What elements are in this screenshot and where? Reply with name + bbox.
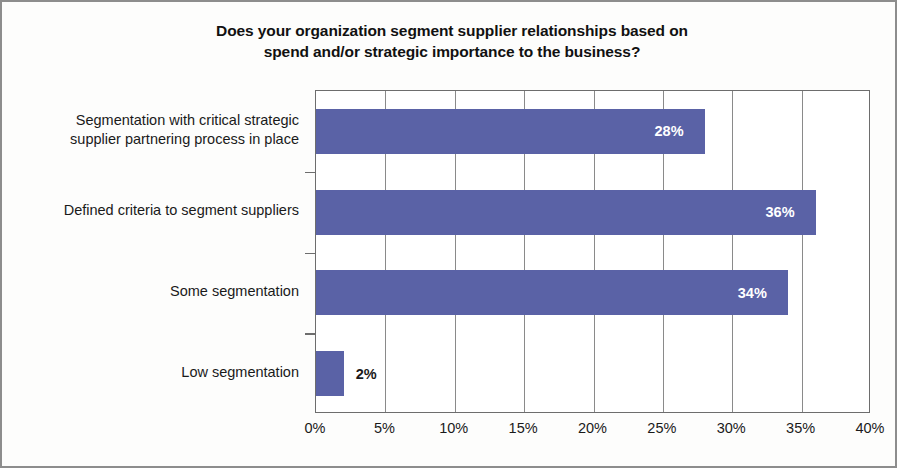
y-axis-tick	[305, 253, 316, 254]
y-axis-category-labels: Segmentation with critical strategicsupp…	[2, 90, 299, 413]
y-axis-tick	[305, 172, 316, 173]
bar	[316, 190, 816, 235]
category-label-line: Low segmentation	[181, 363, 299, 382]
bar-value-label: 2%	[356, 366, 377, 382]
x-tick-label: 5%	[374, 420, 395, 436]
plot-area: 28%36%34%2%	[315, 90, 870, 413]
x-tick-label: 30%	[717, 420, 746, 436]
bar-value-label: 28%	[655, 123, 684, 139]
x-tick-label: 35%	[786, 420, 815, 436]
category-label-line: Defined criteria to segment suppliers	[64, 201, 299, 220]
bar	[316, 270, 788, 315]
chart-figure: Does your organization segment supplier …	[0, 0, 897, 468]
x-tick-label: 40%	[855, 420, 884, 436]
chart-title-line-2: spend and/or strategic importance to the…	[112, 41, 792, 62]
x-tick-label: 0%	[305, 420, 326, 436]
bar	[316, 109, 705, 154]
x-tick-label: 20%	[578, 420, 607, 436]
category-label-line: Segmentation with critical strategic	[70, 111, 299, 130]
chart-title: Does your organization segment supplier …	[112, 20, 792, 63]
bar-row: 2%	[316, 351, 871, 396]
x-tick-label: 15%	[509, 420, 538, 436]
bar-value-label: 34%	[738, 285, 767, 301]
bar-row: 34%	[316, 270, 871, 315]
bar-row: 28%	[316, 109, 871, 154]
category-label: Defined criteria to segment suppliers	[64, 201, 299, 220]
category-label-line: Some segmentation	[170, 282, 299, 301]
category-label-line: supplier partnering process in place	[70, 130, 299, 149]
bar	[316, 351, 344, 396]
y-axis-tick	[305, 333, 316, 334]
x-tick-label: 10%	[439, 420, 468, 436]
category-label: Low segmentation	[181, 363, 299, 382]
x-axis-tick-labels: 0%5%10%15%20%25%30%35%40%	[315, 420, 870, 444]
chart-title-line-1: Does your organization segment supplier …	[112, 20, 792, 41]
bar-row: 36%	[316, 190, 871, 235]
bar-value-label: 36%	[766, 204, 795, 220]
category-label: Segmentation with critical strategicsupp…	[70, 111, 299, 149]
x-tick-label: 25%	[647, 420, 676, 436]
category-label: Some segmentation	[170, 282, 299, 301]
